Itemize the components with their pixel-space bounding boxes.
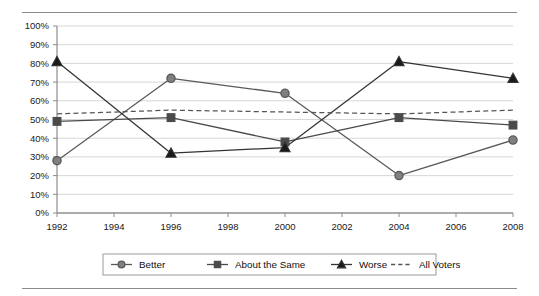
legend-label: All Voters <box>419 259 460 270</box>
marker-square <box>167 114 175 122</box>
x-tick-label: 1994 <box>103 221 124 232</box>
marker-circle <box>53 157 61 165</box>
marker-circle <box>167 74 175 82</box>
chart-canvas: 0%10%20%30%40%50%60%70%80%90%100% 199219… <box>0 0 539 296</box>
x-tick-label: 1992 <box>46 221 67 232</box>
marker-circle <box>118 261 125 268</box>
x-tick-label: 1998 <box>217 221 238 232</box>
x-tick-label: 2002 <box>331 221 352 232</box>
x-tick-label: 2004 <box>388 221 409 232</box>
x-tick-label: 2000 <box>274 221 295 232</box>
y-tick-label: 20% <box>30 170 50 181</box>
y-tick-label: 60% <box>30 95 50 106</box>
series-lines-group <box>57 62 513 176</box>
x-axis-tick-marks <box>57 213 513 217</box>
marker-square <box>53 117 61 125</box>
marker-triangle <box>394 56 404 65</box>
y-tick-label: 70% <box>30 77 50 88</box>
legend-label: About the Same <box>235 259 306 270</box>
marker-square <box>214 261 220 267</box>
marker-circle <box>281 89 289 97</box>
marker-square <box>395 114 403 122</box>
marker-circle <box>509 136 517 144</box>
marker-triangle <box>52 56 62 65</box>
x-tick-label: 2008 <box>502 221 523 232</box>
y-tick-label: 0% <box>35 207 49 218</box>
x-tick-label: 1996 <box>160 221 181 232</box>
legend-label: Worse <box>359 259 388 270</box>
y-tick-label: 30% <box>30 151 50 162</box>
marker-circle <box>395 172 403 180</box>
y-tick-label: 80% <box>30 58 50 69</box>
y-tick-label: 50% <box>30 114 50 125</box>
y-tick-label: 100% <box>25 20 50 31</box>
legend-label: Better <box>139 259 166 270</box>
y-tick-label: 40% <box>30 133 50 144</box>
x-tick-label: 2006 <box>445 221 466 232</box>
y-tick-label: 10% <box>30 189 50 200</box>
legend: BetterAbout the SameWorseAll Voters <box>103 254 460 275</box>
y-axis-tick-labels: 0%10%20%30%40%50%60%70%80%90%100% <box>25 20 50 218</box>
marker-square <box>509 121 517 129</box>
x-axis-tick-labels: 199219941996199820002002200420062008 <box>46 221 523 232</box>
line-chart-figure: 0%10%20%30%40%50%60%70%80%90%100% 199219… <box>0 0 539 296</box>
y-tick-label: 90% <box>30 39 50 50</box>
series-markers-group <box>52 56 518 179</box>
